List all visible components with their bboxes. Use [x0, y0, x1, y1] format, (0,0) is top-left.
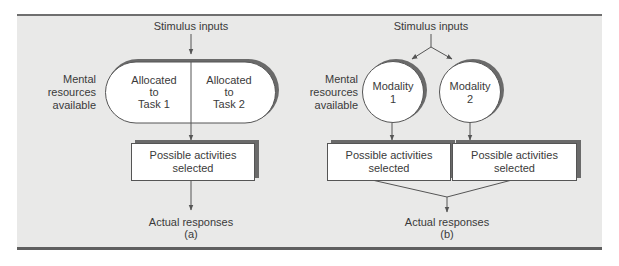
possible-activities-box-b1: Possible activities selected: [327, 143, 451, 181]
possible-activities-box-b2: Possible activities selected: [452, 143, 577, 181]
allocated-task-1: Allocated to Task 1: [121, 74, 187, 110]
modality-2-label: Modality 2: [440, 80, 500, 106]
mental-resources-label-a: Mental resources available: [40, 73, 96, 112]
modality-1-label: Modality 1: [363, 80, 423, 106]
diagram-connectors: [0, 0, 619, 266]
panel-letter-b: (b): [427, 228, 467, 241]
panel-letter-a: (a): [171, 228, 211, 241]
possible-activities-box-a: Possible activities selected: [131, 143, 255, 181]
stimulus-inputs-label-a: Stimulus inputs: [141, 20, 241, 33]
stimulus-inputs-label-b: Stimulus inputs: [381, 20, 481, 33]
mental-resources-label-b: Mental resources available: [302, 73, 358, 112]
allocated-task-2: Allocated to Task 2: [196, 74, 262, 110]
